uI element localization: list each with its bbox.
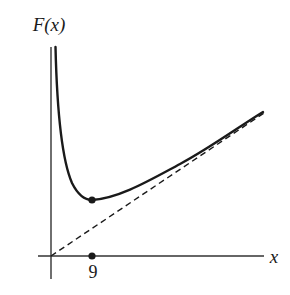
x-tick-label: 9 bbox=[89, 262, 98, 282]
chart-figure: F(x) x 9 bbox=[0, 0, 290, 295]
y-axis-label: F(x) bbox=[32, 14, 66, 36]
x-tick-point-marker bbox=[88, 252, 95, 259]
minimum-point-marker bbox=[88, 196, 95, 203]
x-axis-label: x bbox=[269, 246, 279, 267]
curve-f-of-x bbox=[56, 47, 264, 200]
asymptote-dashed-line bbox=[51, 113, 264, 256]
